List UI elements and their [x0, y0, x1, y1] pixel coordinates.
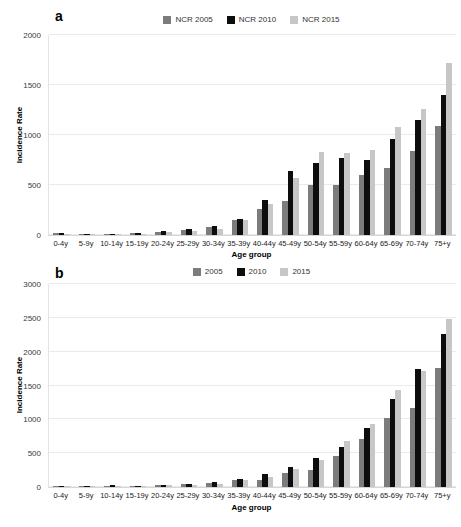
- x-tick-label: 0-4y: [48, 239, 73, 248]
- bar-group-10-14y: [100, 35, 125, 235]
- bar-group-15-19y: [125, 35, 150, 235]
- panel-b-legend: 200520102015: [48, 267, 455, 276]
- y-tick-label: 2000: [23, 347, 41, 356]
- x-tick-label: 10-14y: [99, 239, 124, 248]
- legend-item-ncr-2010: NCR 2010: [227, 15, 276, 24]
- x-tick-label: 50-54y: [302, 239, 327, 248]
- bar-group-10-14y: [100, 284, 125, 487]
- x-tick-label: 15-19y: [124, 491, 149, 500]
- bar-group-55-59y: [329, 35, 354, 235]
- panel-b-x-axis-ticks: 0-4y5-9y10-14y15-19y20-24y25-29y30-34y35…: [48, 491, 455, 500]
- bar-2015: [395, 390, 401, 487]
- x-tick-label: 15-19y: [124, 239, 149, 248]
- x-tick-label: 75+y: [430, 239, 455, 248]
- legend-swatch-icon: [163, 16, 171, 24]
- bar-group-60-64y: [354, 35, 379, 235]
- panel-b-x-axis-title: Age group: [48, 503, 455, 512]
- bar-ncr-2015: [141, 234, 147, 235]
- legend-swatch-icon: [290, 16, 298, 24]
- bar-2015: [268, 477, 274, 487]
- x-tick-label: 35-39y: [226, 239, 251, 248]
- legend-label: NCR 2005: [175, 15, 212, 24]
- legend-swatch-icon: [193, 268, 201, 276]
- x-tick-label: 25-29y: [175, 491, 200, 500]
- y-tick-label: 1500: [23, 381, 41, 390]
- bar-group-0-4y: [49, 35, 74, 235]
- bar-group-45-49y: [278, 35, 303, 235]
- bar-2015: [293, 469, 299, 487]
- bar-2015: [192, 485, 198, 487]
- x-tick-label: 25-29y: [175, 239, 200, 248]
- bar-group-70-74y: [405, 284, 430, 487]
- legend-item-2015: 2015: [280, 267, 310, 276]
- bar-group-5-9y: [74, 35, 99, 235]
- bar-group-40-44y: [253, 35, 278, 235]
- bar-group-50-54y: [303, 284, 328, 487]
- bar-group-25-29y: [176, 284, 201, 487]
- bar-group-35-39y: [227, 284, 252, 487]
- bar-group-75-y: [431, 35, 456, 235]
- x-tick-label: 65-69y: [379, 491, 404, 500]
- x-tick-label: 30-34y: [201, 239, 226, 248]
- x-tick-label: 70-74y: [404, 239, 429, 248]
- x-tick-label: 40-44y: [252, 491, 277, 500]
- legend-item-ncr-2005: NCR 2005: [163, 15, 212, 24]
- panel-a-x-axis-ticks: 0-4y5-9y10-14y15-19y20-24y25-29y30-34y35…: [48, 239, 455, 248]
- y-tick-label: 3000: [23, 280, 41, 289]
- panel-b-y-axis-ticks: 050010001500200025003000: [0, 284, 44, 487]
- y-tick-label: 500: [28, 449, 41, 458]
- bar-group-65-69y: [380, 35, 405, 235]
- legend-label: 2005: [205, 267, 223, 276]
- x-tick-label: 5-9y: [73, 239, 98, 248]
- legend-item-2005: 2005: [193, 267, 223, 276]
- y-tick-label: 500: [28, 181, 41, 190]
- bar-ncr-2015: [192, 231, 198, 235]
- bar-2015: [64, 486, 70, 487]
- bar-ncr-2015: [395, 127, 401, 235]
- bar-ncr-2015: [268, 204, 274, 235]
- bar-group-20-24y: [151, 284, 176, 487]
- legend-label: 2010: [249, 267, 267, 276]
- y-tick-label: 0: [37, 483, 41, 492]
- x-tick-label: 0-4y: [48, 491, 73, 500]
- legend-swatch-icon: [227, 16, 235, 24]
- x-tick-label: 50-54y: [302, 491, 327, 500]
- y-tick-label: 2000: [23, 31, 41, 40]
- panel-a-legend: NCR 2005NCR 2010NCR 2015: [48, 15, 455, 24]
- legend-swatch-icon: [237, 268, 245, 276]
- bar-ncr-2015: [421, 109, 427, 235]
- legend-label: NCR 2010: [239, 15, 276, 24]
- legend-swatch-icon: [280, 268, 288, 276]
- bar-group-45-49y: [278, 284, 303, 487]
- legend-label: NCR 2015: [302, 15, 339, 24]
- x-tick-label: 70-74y: [404, 491, 429, 500]
- x-tick-label: 20-24y: [150, 491, 175, 500]
- x-tick-label: 45-49y: [277, 491, 302, 500]
- y-tick-label: 2500: [23, 313, 41, 322]
- bar-ncr-2015: [446, 63, 452, 235]
- bar-2015: [166, 485, 172, 487]
- bar-2015: [141, 486, 147, 487]
- bar-group-15-19y: [125, 284, 150, 487]
- bar-group-55-59y: [329, 284, 354, 487]
- x-tick-label: 45-49y: [277, 239, 302, 248]
- bar-ncr-2015: [370, 150, 376, 236]
- bar-group-25-29y: [176, 35, 201, 235]
- bar-2015: [370, 424, 376, 487]
- bar-2015: [217, 484, 223, 487]
- x-tick-label: 55-59y: [328, 491, 353, 500]
- bar-ncr-2015: [90, 234, 96, 235]
- x-tick-label: 30-34y: [201, 491, 226, 500]
- bar-groups: [49, 35, 456, 235]
- panel-a-plot-area: [48, 35, 456, 236]
- y-tick-label: 1500: [23, 81, 41, 90]
- bar-group-60-64y: [354, 284, 379, 487]
- bar-group-0-4y: [49, 284, 74, 487]
- bar-group-20-24y: [151, 35, 176, 235]
- figure: a NCR 2005NCR 2010NCR 2015 Incidence Rat…: [0, 0, 461, 527]
- x-tick-label: 20-24y: [150, 239, 175, 248]
- bar-group-35-39y: [227, 35, 252, 235]
- bar-ncr-2015: [217, 229, 223, 236]
- bar-2015: [90, 486, 96, 487]
- bar-ncr-2015: [319, 152, 325, 235]
